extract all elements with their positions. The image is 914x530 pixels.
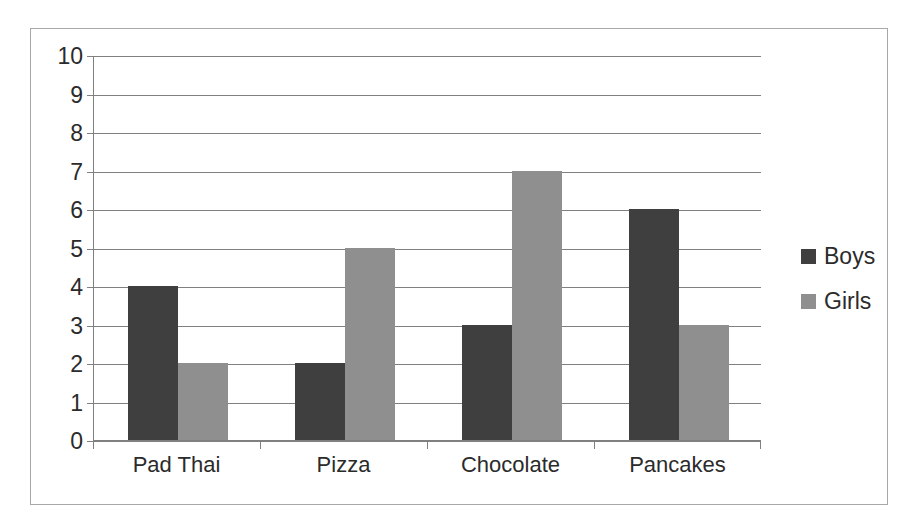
bar-boys-pad-thai[interactable] [128,286,178,440]
y-axis-tick-label: 4 [70,276,83,299]
y-axis-tick-mark [87,56,93,57]
y-axis-tick-label: 10 [57,45,83,68]
y-axis-tick-label: 6 [70,199,83,222]
y-axis-tick-mark [87,95,93,96]
legend-swatch-boys-icon [801,249,816,264]
legend-swatch-girls-icon [801,294,816,309]
bars-layer [94,56,761,440]
bar-girls-chocolate[interactable] [512,171,562,441]
legend-entry-boys[interactable]: Boys [801,234,887,279]
x-axis-separator-tick [594,441,595,449]
bar-boys-pancakes[interactable] [629,209,679,440]
legend: BoysGirls [801,234,887,324]
x-axis-label-pancakes: Pancakes [629,454,726,476]
y-axis-tick-mark [87,172,93,173]
x-axis-label-chocolate: Chocolate [461,454,560,476]
x-axis-separator-tick [260,441,261,449]
y-axis-tick-label: 3 [70,314,83,337]
y-axis-tick-label: 9 [70,83,83,106]
bar-girls-pizza[interactable] [345,248,395,441]
chart-frame: 012345678910 Pad ThaiPizzaChocolatePanca… [30,28,888,505]
bar-group [428,56,595,440]
legend-label: Girls [824,290,871,313]
y-axis-tick-mark [87,326,93,327]
x-axis-category-ticks [93,441,761,451]
y-axis-tick-mark [87,210,93,211]
y-axis-tick-label: 7 [70,160,83,183]
y-axis-tick-label: 1 [70,391,83,414]
y-axis-tick-mark [87,403,93,404]
bar-group [261,56,428,440]
x-axis-category-labels: Pad ThaiPizzaChocolatePancakes [93,454,761,494]
x-axis-label-pad-thai: Pad Thai [133,454,221,476]
y-axis-tick-label: 2 [70,353,83,376]
bar-group [94,56,261,440]
x-axis-label-pizza: Pizza [317,454,371,476]
bar-boys-chocolate[interactable] [462,325,512,441]
x-axis-separator-tick [760,441,761,449]
legend-label: Boys [824,245,875,268]
x-axis-separator-tick [427,441,428,449]
y-axis-tick-mark [87,249,93,250]
bar-group [595,56,762,440]
y-axis-tick-labels: 012345678910 [31,56,83,441]
y-axis-tick-label: 8 [70,122,83,145]
y-axis-tick-mark [87,287,93,288]
legend-entry-girls[interactable]: Girls [801,279,887,324]
y-axis-tick-label: 5 [70,237,83,260]
bar-boys-pizza[interactable] [295,363,345,440]
bar-girls-pad-thai[interactable] [178,363,228,440]
plot-area [93,56,761,441]
y-axis-tick-label: 0 [70,430,83,453]
x-axis-separator-tick [93,441,94,449]
y-axis-tick-mark [87,364,93,365]
bar-girls-pancakes[interactable] [679,325,729,441]
y-axis-tick-mark [87,133,93,134]
